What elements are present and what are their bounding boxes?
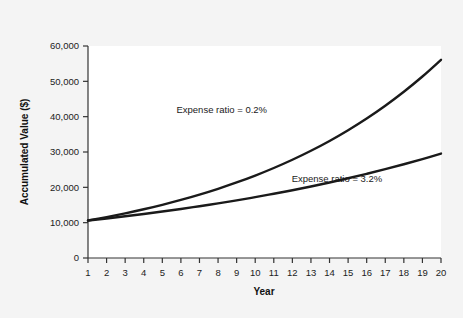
x-tick-label: 17 [380, 267, 391, 278]
y-tick-label: 0 [74, 252, 79, 263]
x-tick-label: 18 [399, 267, 410, 278]
y-tick-label: 50,000 [50, 76, 79, 87]
x-tick-label: 6 [178, 267, 183, 278]
x-tick-label: 3 [123, 267, 128, 278]
x-tick-label: 7 [197, 267, 202, 278]
series-annotation-1: Expense ratio = 3.2% [292, 173, 383, 184]
x-axis-title: Year [253, 286, 274, 297]
x-tick-label: 4 [141, 267, 146, 278]
y-tick-label: 40,000 [50, 111, 79, 122]
x-tick-label: 15 [343, 267, 354, 278]
x-tick-label: 8 [215, 267, 220, 278]
x-tick-label: 10 [250, 267, 261, 278]
x-tick-label: 9 [234, 267, 239, 278]
x-tick-label: 2 [104, 267, 109, 278]
x-tick-label: 1 [85, 267, 90, 278]
x-tick-label: 19 [417, 267, 428, 278]
x-tick-label: 11 [269, 267, 279, 278]
x-tick-label: 20 [436, 267, 447, 278]
accumulated-value-chart: 010,00020,00030,00040,00050,00060,000 12… [0, 0, 463, 318]
y-tick-label: 10,000 [50, 217, 79, 228]
plot-area-background [88, 46, 441, 258]
y-tick-label: 30,000 [50, 146, 79, 157]
x-tick-label: 14 [324, 267, 335, 278]
x-tick-label: 13 [306, 267, 317, 278]
x-tick-label: 12 [287, 267, 298, 278]
series-annotation-0: Expense ratio = 0.2% [176, 104, 267, 115]
x-tick-label: 5 [160, 267, 165, 278]
x-tick-label: 16 [361, 267, 372, 278]
y-tick-label: 60,000 [50, 40, 79, 51]
y-axis-title: Accumulated Value ($) [19, 99, 30, 206]
y-tick-label: 20,000 [50, 182, 79, 193]
